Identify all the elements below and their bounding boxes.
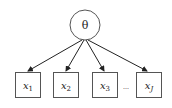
observed-node-x1: x1 [16, 73, 41, 98]
observed-node-x3: x3 [93, 73, 118, 98]
observed-node-xJ: xJ [137, 73, 162, 98]
observed-node-x2: x2 [54, 73, 79, 98]
latent-variable-diagram: θ x1 x2 x3 ... xJ [0, 0, 172, 108]
observed-subscript: 1 [29, 85, 33, 93]
edge-theta-x1 [28, 40, 82, 71]
ellipsis: ... [123, 82, 129, 91]
edge-theta-xJ [88, 40, 147, 71]
edge-theta-x2 [66, 40, 84, 71]
latent-node-theta: θ [70, 10, 100, 40]
edge-theta-x3 [86, 40, 104, 71]
observed-subscript: 3 [106, 85, 110, 93]
edges [28, 40, 147, 71]
latent-label: θ [82, 19, 89, 32]
observed-subscript: 2 [67, 85, 71, 93]
